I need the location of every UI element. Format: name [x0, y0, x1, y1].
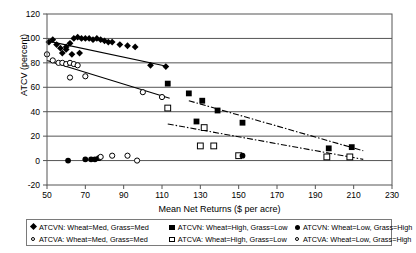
point-circle-open [134, 158, 139, 163]
point-square-open [201, 125, 207, 131]
legend-item-atcva-low-high: ATCVA: Wheat=Low, Grass=High [293, 235, 389, 244]
chart-container: -20020406080100120 507090110130150170190… [0, 0, 416, 253]
y-tick-label: 60 [31, 82, 41, 92]
point-square-open [211, 143, 217, 149]
point-circle-open [110, 153, 115, 158]
point-diamond-filled [132, 44, 139, 51]
point-diamond-filled [162, 63, 169, 70]
point-square-filled [194, 119, 200, 125]
square-open-icon [168, 235, 177, 244]
point-circle-filled [82, 156, 88, 162]
point-circle-open [75, 63, 80, 68]
legend-label: ATCVN: Wheat=High, Grass=Low [178, 223, 288, 232]
point-square-open [197, 143, 203, 149]
point-square-filled [186, 90, 192, 96]
legend-label: ATCVA: Wheat=Low, Grass=High [303, 235, 411, 244]
point-square-filled [326, 145, 332, 151]
legend-label: ATCVN: Wheat=Med, Grass=Med [39, 223, 149, 232]
point-circle-open [50, 58, 55, 63]
point-diamond-filled [116, 41, 123, 48]
legend-item-atcva-high-low: ATCVA: Wheat=High, Grass=Low [168, 235, 293, 244]
point-diamond-filled [76, 50, 83, 57]
circle-open-icon [29, 235, 38, 244]
point-circle-open [159, 94, 164, 99]
point-square-filled [349, 144, 355, 150]
point-square-open [165, 105, 171, 111]
point-circle-open [140, 90, 145, 95]
y-tick-label: 20 [31, 131, 41, 141]
point-diamond-filled [69, 51, 76, 58]
legend-item-atcvn-high-low: ATCVN: Wheat=High, Grass=Low [168, 223, 293, 232]
square-filled-icon [168, 223, 177, 232]
x-axis-title-text: Mean Net Returns ($ per acre) [158, 204, 280, 214]
legend-item-atcvn-low-high: ATCVN: Wheat=Low, Grass=High [293, 223, 389, 232]
legend-label: ATCVN: Wheat=Low, Grass=High [303, 223, 412, 232]
y-tick-label: 0 [35, 156, 40, 166]
point-circle-open [98, 154, 103, 159]
point-circle-open [67, 75, 72, 80]
legend-item-atcva-med-med: ATCVA: Wheat=Med, Grass=Med [29, 235, 168, 244]
point-circle-open [125, 153, 130, 158]
legend-item-atcvn-med-med: ATCVN: Wheat=Med, Grass=Med [29, 223, 168, 232]
y-axis-title-text: ATCV (percent) [19, 34, 29, 96]
point-diamond-filled [124, 42, 131, 49]
legend-row-atcvn: ATCVN: Wheat=Med, Grass=Med ATCVN: Wheat… [29, 221, 389, 233]
y-tick-label: 80 [31, 58, 41, 68]
legend-label: ATCVA: Wheat=Med, Grass=Med [39, 235, 148, 244]
point-square-filled [215, 108, 221, 114]
point-diamond-filled [109, 39, 116, 46]
point-circle-filled [240, 153, 246, 159]
data-points [44, 34, 354, 164]
y-axis-title: ATCV (percent) [13, 0, 27, 135]
legend-row-atcva: ATCVA: Wheat=Med, Grass=Med ATCVA: Wheat… [29, 233, 389, 245]
circle-open-icon [293, 235, 302, 244]
point-square-filled [240, 120, 246, 126]
diamond-filled-icon [29, 223, 38, 232]
y-tick-label: 120 [26, 9, 40, 19]
legend-label: ATCVA: Wheat=High, Grass=Low [178, 235, 287, 244]
y-tick-label: -20 [28, 180, 41, 190]
point-circle-open [83, 74, 88, 79]
point-square-filled [199, 98, 205, 104]
chart-legend: ATCVN: Wheat=Med, Grass=Med ATCVN: Wheat… [26, 219, 392, 246]
point-square-open [347, 154, 353, 160]
y-tick-label: 40 [31, 107, 41, 117]
x-axis-title: Mean Net Returns ($ per acre) [47, 198, 392, 216]
circle-filled-icon [293, 223, 302, 232]
point-circle-filled [65, 158, 71, 164]
trendline [168, 124, 364, 159]
point-square-filled [165, 81, 171, 87]
point-square-open [324, 154, 330, 160]
gridlines [47, 38, 392, 160]
